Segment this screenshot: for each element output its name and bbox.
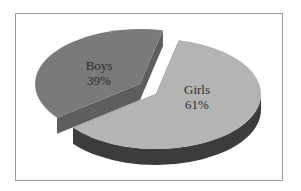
label-girls-value: 61% <box>185 97 209 112</box>
label-boys-value: 39% <box>87 73 111 88</box>
label-girls-name: Girls <box>184 82 210 97</box>
pie-chart: Boys 39% Girls 61% <box>0 0 301 191</box>
label-boys-name: Boys <box>86 58 113 73</box>
